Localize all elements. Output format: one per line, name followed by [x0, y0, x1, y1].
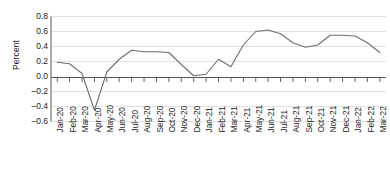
- x-tick-label: Oct-21: [316, 108, 325, 133]
- x-tick-label: Mar-20: [81, 106, 90, 132]
- x-tick-label: Mar-22: [378, 106, 387, 132]
- x-tick-label: Jul-21: [279, 110, 288, 133]
- x-tick-label: Dec-21: [341, 106, 350, 133]
- x-tick-label: Jan-21: [205, 107, 214, 132]
- x-tick-label: Feb-21: [217, 106, 226, 132]
- x-tick-label: Jun-20: [118, 107, 127, 132]
- x-tick-label: Jul-20: [130, 110, 139, 133]
- x-tick-label: Aug-21: [292, 106, 301, 133]
- x-axis-tick-labels: Jan-20Feb-20Mar-20Apr-20May-20Jun-20Jul-…: [0, 0, 390, 194]
- x-tick-label: Sep-21: [304, 106, 313, 133]
- x-tick-label: Jan-20: [56, 107, 65, 132]
- percent-line-chart: Percent 0.80.60.40.20.0–0.2–0.4–0.6 Jan-…: [0, 0, 390, 194]
- x-tick-label: Feb-22: [366, 106, 375, 132]
- x-tick-label: Oct-20: [168, 108, 177, 133]
- x-tick-label: Sep-20: [155, 106, 164, 133]
- x-tick-label: Dec-20: [192, 106, 201, 133]
- x-tick-label: Jun-21: [267, 107, 276, 132]
- x-tick-label: May-20: [106, 105, 115, 133]
- x-tick-label: Nov-20: [180, 106, 189, 133]
- x-tick-label: Feb-20: [68, 106, 77, 132]
- x-tick-label: Apr-20: [93, 108, 102, 133]
- x-tick-label: May-21: [254, 105, 263, 133]
- x-tick-label: Aug-20: [143, 106, 152, 133]
- x-tick-label: Apr-21: [242, 108, 251, 133]
- x-tick-label: Nov-21: [329, 106, 338, 133]
- x-tick-label: Jan-22: [354, 107, 363, 132]
- x-tick-label: Mar-21: [230, 106, 239, 132]
